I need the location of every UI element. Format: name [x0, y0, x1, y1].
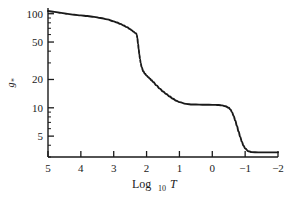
x-axis-title-subscript: 10 [158, 184, 166, 193]
y-tick-label: 50 [32, 36, 44, 48]
x-tick-label: 0 [210, 162, 216, 174]
y-tick-label: 5 [38, 130, 44, 142]
x-tick-label: −2 [272, 162, 284, 174]
x-tick-label: 3 [111, 162, 117, 174]
y-tick-label: 20 [32, 73, 44, 85]
x-tick-label: 4 [78, 162, 84, 174]
x-tick-label: −1 [239, 162, 251, 174]
chart-figure: 1005020105 543210−1−2 Log 10 T g * [0, 0, 293, 197]
y-tick-label: 10 [32, 102, 44, 114]
x-tick-label: 1 [177, 162, 183, 174]
y-tick-label: 100 [27, 8, 44, 20]
y-axis-title-subscript: * [10, 78, 19, 82]
y-axis-title-main: g [5, 83, 16, 88]
x-axis-title-main: Log [132, 177, 151, 191]
x-tick-label: 5 [45, 162, 51, 174]
gstar-vs-temperature-chart: 1005020105 543210−1−2 Log 10 T g * [0, 0, 293, 197]
x-tick-label: 2 [144, 162, 150, 174]
